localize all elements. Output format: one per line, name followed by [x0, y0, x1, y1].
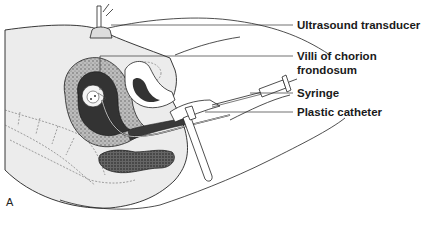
panel-letter: A: [6, 196, 13, 208]
label-villi-line1: Villi of chorion: [297, 50, 377, 63]
syringe: [212, 75, 297, 107]
ultrasound-transducer: [90, 4, 113, 38]
label-syringe: Syringe: [297, 87, 339, 100]
label-villi-line2: frondosum: [297, 64, 357, 77]
label-plastic-catheter: Plastic catheter: [297, 106, 382, 119]
label-ultrasound-transducer: Ultrasound transducer: [297, 19, 420, 32]
